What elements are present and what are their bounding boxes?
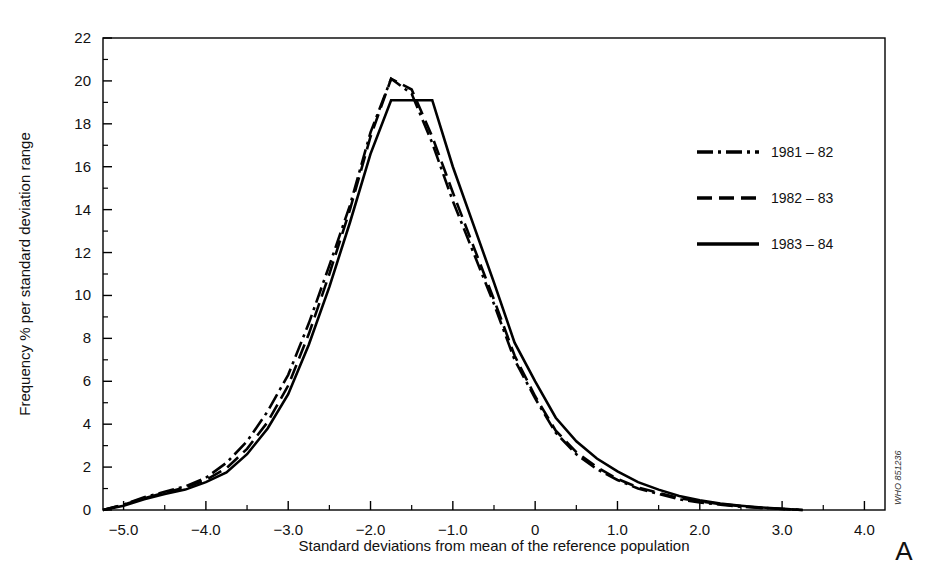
x-tick-label: 1.0 xyxy=(607,521,628,538)
y-tick-label: 6 xyxy=(83,372,91,389)
y-tick-label: 16 xyxy=(74,158,91,175)
panel-letter: A xyxy=(895,536,913,566)
y-tick-label: 2 xyxy=(83,458,91,475)
y-tick-label: 8 xyxy=(83,329,91,346)
figure-container: −5.0−4.0−3.0−2.0−1.001.02.03.04.0 024681… xyxy=(0,0,941,584)
legend-label-3: 1983 – 84 xyxy=(771,236,833,252)
x-tick-label: −2.0 xyxy=(356,521,386,538)
y-tick-label: 18 xyxy=(74,115,91,132)
legend-label-2: 1982 – 83 xyxy=(771,190,833,206)
x-tick-label: −3.0 xyxy=(273,521,303,538)
x-tick-label: 0 xyxy=(531,521,539,538)
chart-background xyxy=(0,0,941,584)
y-tick-label: 20 xyxy=(74,72,91,89)
x-axis-title: Standard deviations from mean of the ref… xyxy=(298,537,689,554)
y-tick-label: 22 xyxy=(74,29,91,46)
x-tick-label: −1.0 xyxy=(438,521,468,538)
y-tick-label: 4 xyxy=(83,415,91,432)
x-tick-label: −4.0 xyxy=(191,521,221,538)
x-tick-label: −5.0 xyxy=(109,521,139,538)
x-tick-label: 3.0 xyxy=(772,521,793,538)
chart-canvas: −5.0−4.0−3.0−2.0−1.001.02.03.04.0 024681… xyxy=(0,0,941,584)
y-tick-label: 14 xyxy=(74,201,91,218)
x-tick-label: 2.0 xyxy=(689,521,710,538)
figure-credit: WHO 851236 xyxy=(893,450,903,505)
x-tick-label: 4.0 xyxy=(854,521,875,538)
y-tick-label: 10 xyxy=(74,286,91,303)
y-tick-label: 0 xyxy=(83,501,91,518)
legend-label-1: 1981 – 82 xyxy=(771,144,833,160)
y-tick-label: 12 xyxy=(74,244,91,261)
y-axis-title: Frequency % per standard deviation range xyxy=(16,132,33,416)
